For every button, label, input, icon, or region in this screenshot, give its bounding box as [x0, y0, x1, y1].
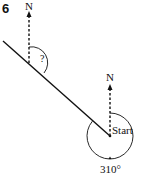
bearing-label: 310° [100, 163, 121, 175]
start-label: Start [112, 124, 133, 136]
north-label-top: N [25, 0, 33, 12]
arc-tick-icon [109, 157, 112, 160]
unknown-angle-label: ? [40, 53, 45, 64]
north-arrow-top [27, 11, 32, 63]
path-line [3, 41, 110, 136]
bearing-diagram: 6 N ? N Start 310° [0, 0, 141, 179]
unknown-angle-arc [29, 47, 48, 73]
question-number: 6 [2, 1, 9, 16]
start-point [109, 135, 112, 138]
north-label-start: N [106, 71, 114, 83]
arrowhead-icon [108, 84, 113, 90]
